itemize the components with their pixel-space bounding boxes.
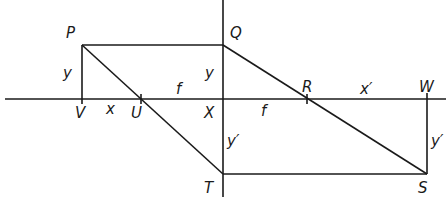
ray-qs (223, 45, 427, 174)
label-pv-length: y (62, 64, 73, 82)
label-xr-length: f (261, 102, 269, 120)
label-qx-length: y (204, 64, 215, 82)
label-ux-length: f (176, 80, 184, 98)
label-w: W (419, 78, 435, 96)
label-q: Q (230, 24, 242, 42)
label-xt-length: y′ (226, 132, 240, 150)
label-t: T (204, 179, 215, 197)
label-vu-length: x (105, 100, 115, 118)
diagram-canvas: P Q R W V U X T S y y x f f x′ y′ y′ (0, 0, 448, 206)
ray-pt (82, 45, 223, 174)
label-u: U (131, 104, 142, 122)
label-p: P (66, 24, 76, 42)
label-s: S (418, 179, 428, 197)
label-rw-length: x′ (359, 80, 373, 98)
label-ws-length: y′ (430, 132, 444, 150)
label-r: R (302, 78, 312, 96)
label-x: X (203, 104, 215, 122)
label-v: V (75, 104, 87, 122)
